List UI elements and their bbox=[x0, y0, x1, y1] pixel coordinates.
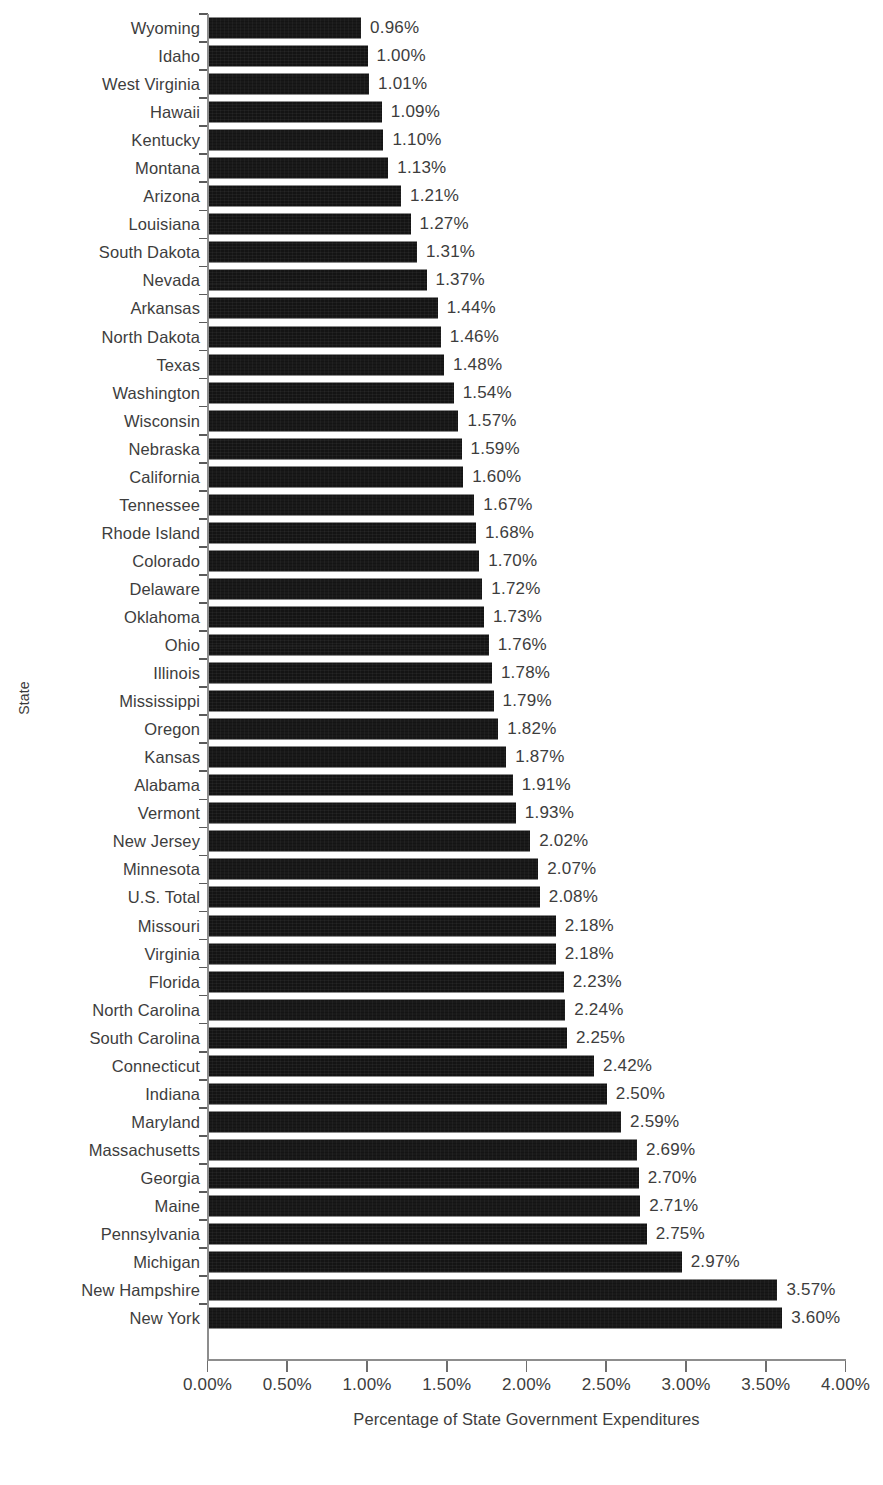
bar-row: Hawaii1.09% bbox=[0, 98, 883, 126]
category-label: Virginia bbox=[144, 944, 200, 963]
bar bbox=[208, 298, 438, 319]
bar-row: Texas1.48% bbox=[0, 351, 883, 379]
category-label: Massachusetts bbox=[89, 1140, 200, 1159]
bar-value-label: 1.78% bbox=[501, 663, 550, 683]
bar-row: Florida2.23% bbox=[0, 968, 883, 996]
bar bbox=[208, 74, 369, 95]
category-label: Nevada bbox=[143, 271, 200, 290]
category-label: Mississippi bbox=[119, 692, 200, 711]
bar-value-label: 1.54% bbox=[463, 383, 512, 403]
x-axis-tick-label: 3.00% bbox=[661, 1375, 710, 1395]
bar bbox=[208, 887, 540, 908]
bar-value-label: 1.13% bbox=[397, 158, 446, 178]
bar-row: Nevada1.37% bbox=[0, 266, 883, 294]
x-axis-tick bbox=[366, 1361, 368, 1372]
bar-row: Illinois1.78% bbox=[0, 659, 883, 687]
bar-row: Indiana2.50% bbox=[0, 1080, 883, 1108]
bar bbox=[208, 130, 383, 151]
bar bbox=[208, 1195, 640, 1216]
bar-row: Idaho1.00% bbox=[0, 42, 883, 70]
bar bbox=[208, 158, 388, 179]
bar bbox=[208, 1224, 647, 1245]
bar bbox=[208, 943, 556, 964]
category-label: Washington bbox=[112, 383, 200, 402]
bar bbox=[208, 102, 382, 123]
category-label: Michigan bbox=[133, 1253, 200, 1272]
bar bbox=[208, 382, 454, 403]
category-label: Alabama bbox=[134, 776, 200, 795]
category-label: Wisconsin bbox=[124, 411, 200, 430]
bar-value-label: 1.68% bbox=[485, 523, 534, 543]
x-axis-tick-label: 2.50% bbox=[582, 1375, 631, 1395]
bar-value-label: 2.08% bbox=[549, 887, 598, 907]
category-label: New York bbox=[129, 1309, 200, 1328]
bar bbox=[208, 494, 474, 515]
bar bbox=[208, 999, 565, 1020]
bar-row: New York3.60% bbox=[0, 1304, 883, 1332]
bar bbox=[208, 242, 417, 263]
x-axis-tick bbox=[207, 1361, 209, 1372]
bar-value-label: 1.60% bbox=[472, 467, 521, 487]
bar-value-label: 1.01% bbox=[378, 74, 427, 94]
bar-row: Alabama1.91% bbox=[0, 771, 883, 799]
bar-value-label: 1.59% bbox=[471, 439, 520, 459]
category-label: New Jersey bbox=[113, 832, 200, 851]
bar bbox=[208, 410, 458, 431]
category-label: Idaho bbox=[158, 47, 200, 66]
bar-value-label: 1.37% bbox=[436, 270, 485, 290]
bar-row: South Dakota1.31% bbox=[0, 238, 883, 266]
bar-value-label: 1.67% bbox=[483, 495, 532, 515]
bar-value-label: 1.72% bbox=[491, 579, 540, 599]
bar-value-label: 2.42% bbox=[603, 1056, 652, 1076]
bar-value-label: 2.50% bbox=[616, 1084, 665, 1104]
category-label: New Hampshire bbox=[81, 1281, 200, 1300]
bar-value-label: 1.48% bbox=[453, 355, 502, 375]
x-axis-tick bbox=[286, 1361, 288, 1372]
bar bbox=[208, 438, 462, 459]
category-label: Kentucky bbox=[131, 131, 200, 150]
bar-value-label: 3.57% bbox=[786, 1280, 835, 1300]
bar bbox=[208, 186, 401, 207]
bar-value-label: 1.93% bbox=[525, 803, 574, 823]
bar bbox=[208, 1055, 594, 1076]
x-axis-ticks bbox=[0, 1361, 883, 1373]
bar-row: New Hampshire3.57% bbox=[0, 1276, 883, 1304]
category-label: Hawaii bbox=[150, 103, 200, 122]
bar-row: Oregon1.82% bbox=[0, 715, 883, 743]
bar-row: Montana1.13% bbox=[0, 154, 883, 182]
x-axis-tick-label: 3.50% bbox=[741, 1375, 790, 1395]
bar-row: Oklahoma1.73% bbox=[0, 603, 883, 631]
bar-row: Louisiana1.27% bbox=[0, 210, 883, 238]
bar-row: Georgia2.70% bbox=[0, 1164, 883, 1192]
x-axis-tick bbox=[685, 1361, 687, 1372]
x-axis-tick-label: 1.00% bbox=[342, 1375, 391, 1395]
category-label: South Dakota bbox=[99, 243, 200, 262]
bar-row: Delaware1.72% bbox=[0, 575, 883, 603]
bar bbox=[208, 326, 441, 347]
category-label: Pennsylvania bbox=[101, 1225, 200, 1244]
bar bbox=[208, 915, 556, 936]
bar-value-label: 2.69% bbox=[646, 1140, 695, 1160]
category-label: Georgia bbox=[141, 1168, 200, 1187]
category-label: Maryland bbox=[131, 1112, 200, 1131]
category-label: Minnesota bbox=[123, 860, 200, 879]
bar bbox=[208, 775, 513, 796]
x-axis-tick-label: 0.50% bbox=[263, 1375, 312, 1395]
category-label: Missouri bbox=[138, 916, 200, 935]
bar bbox=[208, 635, 489, 656]
bar-value-label: 1.87% bbox=[515, 747, 564, 767]
bar-row: Mississippi1.79% bbox=[0, 687, 883, 715]
x-axis-tick bbox=[845, 1361, 847, 1372]
bar-value-label: 2.24% bbox=[574, 1000, 623, 1020]
category-label: Maine bbox=[155, 1196, 200, 1215]
bar-row: West Virginia1.01% bbox=[0, 70, 883, 98]
bar-value-label: 2.70% bbox=[648, 1168, 697, 1188]
category-label: North Carolina bbox=[92, 1000, 200, 1019]
bar bbox=[208, 691, 494, 712]
category-label: Connecticut bbox=[112, 1056, 200, 1075]
bar bbox=[208, 1111, 621, 1132]
bar-row: Rhode Island1.68% bbox=[0, 519, 883, 547]
bar-row: California1.60% bbox=[0, 463, 883, 491]
bar-value-label: 1.79% bbox=[503, 691, 552, 711]
category-label: West Virginia bbox=[102, 75, 200, 94]
